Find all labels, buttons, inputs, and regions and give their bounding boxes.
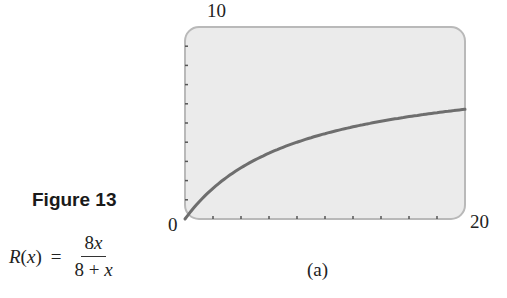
plot-area <box>0 0 507 298</box>
plot-frame <box>185 27 465 219</box>
